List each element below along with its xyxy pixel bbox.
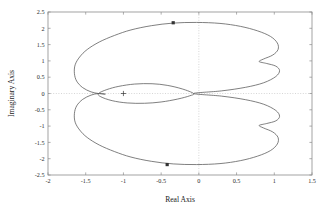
y-tick-label: 0 <box>42 90 45 97</box>
plot-svg: -2-1.5-1-0.500.511.52.521.510.50-0.5-1-1… <box>0 0 333 207</box>
x-tick-label: 0.5 <box>233 177 241 184</box>
lower-frequency-marker <box>166 163 169 166</box>
y-tick-label: 0.5 <box>37 73 45 80</box>
y-tick-label: -1 <box>39 122 44 129</box>
y-tick-label: -0.5 <box>35 106 45 113</box>
x-tick-label: -0.5 <box>156 177 166 184</box>
y-tick-label: -2 <box>39 155 44 162</box>
x-tick-label: 1.5 <box>308 177 316 184</box>
x-tick-label: 1 <box>273 177 276 184</box>
y-tick-label: -2.5 <box>35 171 45 178</box>
x-tick-label: -2 <box>45 177 50 184</box>
y-axis-title: Imaginary Axis <box>7 70 16 117</box>
figure-background <box>0 0 333 207</box>
x-tick-label: -1.5 <box>81 177 91 184</box>
x-tick-label: -1 <box>121 177 126 184</box>
upper-frequency-marker <box>172 21 175 24</box>
y-tick-label: -1.5 <box>35 139 45 146</box>
y-tick-label: 2 <box>42 25 45 32</box>
x-tick-label: 0 <box>197 177 200 184</box>
x-axis-title: Real Axis <box>165 195 195 204</box>
nyquist-plot-figure: -2-1.5-1-0.500.511.52.521.510.50-0.5-1-1… <box>0 0 333 207</box>
y-tick-label: 1 <box>42 57 45 64</box>
y-tick-label: 1.5 <box>37 41 45 48</box>
y-tick-label: 2.5 <box>37 8 45 15</box>
